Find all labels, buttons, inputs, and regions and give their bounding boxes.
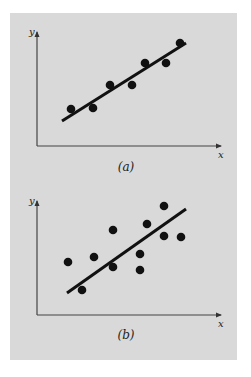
data-point <box>90 253 99 262</box>
data-point <box>109 226 118 235</box>
data-point <box>128 81 137 90</box>
data-point <box>78 286 87 295</box>
y-axis-label: y <box>28 195 35 206</box>
chart-b: x y (b) <box>28 195 224 342</box>
data-point <box>64 258 73 267</box>
fit-line <box>67 209 186 293</box>
x-axis-label: x <box>218 318 224 329</box>
data-point <box>106 81 115 90</box>
data-point <box>160 202 169 211</box>
data-points <box>67 39 185 114</box>
figure-canvas: x y (a) x y (b) <box>0 0 251 377</box>
data-point <box>109 263 118 272</box>
chart-caption: (a) <box>118 160 135 174</box>
data-points <box>64 202 186 295</box>
data-point <box>141 59 150 68</box>
data-point <box>143 220 152 229</box>
data-point <box>67 105 76 114</box>
x-axis-label: x <box>218 149 224 160</box>
fit-line <box>62 43 186 121</box>
data-point <box>176 39 185 48</box>
chart-a: x y (a) <box>28 26 224 174</box>
data-point <box>89 104 98 113</box>
data-point <box>136 250 145 259</box>
data-point <box>160 232 169 241</box>
data-point <box>162 59 171 68</box>
chart-caption: (b) <box>117 328 134 342</box>
data-point <box>136 266 145 275</box>
data-point <box>177 233 186 242</box>
y-axis-label: y <box>28 26 35 37</box>
